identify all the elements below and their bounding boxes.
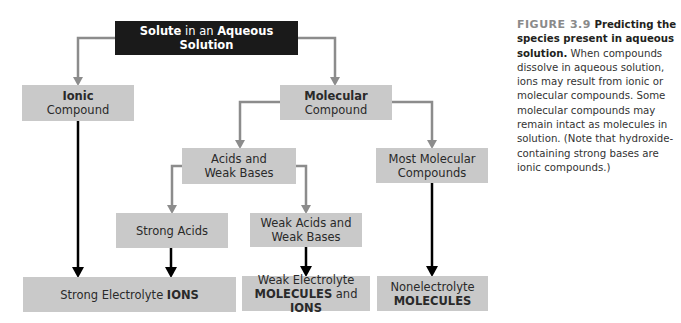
figure-label: FIGURE 3.9 bbox=[517, 18, 591, 31]
node-weak-electrolyte: Weak Electrolyte MOLECULES and IONS bbox=[242, 276, 370, 311]
figure-caption: FIGURE 3.9 Predicting the species presen… bbox=[517, 18, 681, 175]
node-nonelectrolyte: Nonelectrolyte MOLECULES bbox=[377, 276, 488, 311]
weak-electrolyte-ions: IONS bbox=[290, 301, 322, 315]
strong-acids-label: Strong Acids bbox=[136, 224, 208, 238]
nonelectrolyte-molecules: MOLECULES bbox=[394, 294, 472, 308]
title-solute: Solute bbox=[140, 24, 182, 38]
node-strong-electrolyte: Strong Electrolyte IONS bbox=[23, 277, 236, 312]
strong-electrolyte-label: Strong Electrolyte bbox=[60, 288, 167, 302]
nonelectrolyte-label: Nonelectrolyte bbox=[390, 280, 474, 294]
node-most-molecular-compounds: Most Molecular Compounds bbox=[376, 148, 488, 183]
weak-electrolyte-molecules: MOLECULES bbox=[255, 287, 333, 301]
node-weak-acids-weak-bases: Weak Acids and Weak Bases bbox=[250, 213, 362, 247]
node-molecular-compound: Molecular Compound bbox=[280, 85, 392, 120]
weak-acids-line1: Weak Acids and bbox=[261, 216, 352, 230]
molecular-label: Molecular bbox=[304, 89, 367, 103]
node-solute-aqueous-solution: Solute in an Aqueous Solution bbox=[115, 21, 298, 55]
strong-electrolyte-ions: IONS bbox=[167, 288, 199, 302]
weak-acids-line2: Weak Bases bbox=[271, 230, 340, 244]
caption-body: When compounds dissolve in aqueous solut… bbox=[517, 48, 673, 173]
acids-line2: Weak Bases bbox=[204, 166, 273, 180]
node-ionic-compound: Ionic Compound bbox=[22, 85, 134, 121]
acids-line1: Acids and bbox=[211, 152, 267, 166]
ionic-label: Ionic bbox=[62, 89, 93, 103]
most-molecular-line2: Compounds bbox=[398, 166, 466, 180]
title-connector: in an bbox=[181, 24, 217, 38]
weak-electrolyte-and: and bbox=[332, 287, 357, 301]
node-acids-weak-bases: Acids and Weak Bases bbox=[182, 148, 296, 184]
ionic-sub: Compound bbox=[47, 103, 109, 117]
molecular-sub: Compound bbox=[305, 103, 367, 117]
most-molecular-line1: Most Molecular bbox=[389, 152, 476, 166]
node-strong-acids: Strong Acids bbox=[116, 213, 228, 248]
weak-electrolyte-label: Weak Electrolyte bbox=[258, 273, 355, 287]
